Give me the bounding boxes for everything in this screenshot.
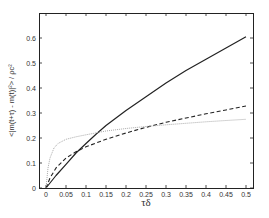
x-tick-label: 0	[44, 191, 48, 198]
x-tick-label: 0.15	[99, 191, 113, 198]
x-tick-label: 0.3	[161, 191, 171, 198]
y-tick-label: 0.4	[26, 85, 36, 92]
x-axis-label: τδ	[141, 196, 151, 208]
y-tick-label: 0.5	[26, 60, 36, 67]
y-tick-label: 0.1	[26, 160, 36, 167]
series-line-dashed	[46, 106, 246, 188]
x-tick-label: 0.05	[59, 191, 73, 198]
y-tick-label: 0.2	[26, 135, 36, 142]
y-tick-label: 0.6	[26, 35, 36, 42]
x-axis-ticks: 00.050.10.150.20.250.30.350.40.450.5	[44, 13, 251, 198]
y-axis-ticks: 00.10.20.30.40.50.6	[26, 35, 253, 192]
x-tick-label: 0.2	[121, 191, 131, 198]
data-series	[46, 37, 246, 188]
x-tick-label: 0.45	[219, 191, 233, 198]
x-tick-label: 0.4	[201, 191, 211, 198]
x-tick-label: 0.35	[179, 191, 193, 198]
x-tick-label: 0.1	[81, 191, 91, 198]
y-tick-label: 0	[32, 185, 36, 192]
line-chart: 00.050.10.150.20.250.30.350.40.450.5 00.…	[0, 0, 269, 218]
series-line-solid	[46, 37, 246, 188]
plot-frame	[40, 14, 254, 189]
x-tick-label: 0.5	[241, 191, 251, 198]
y-axis-label: <|m(t+τ) - m(t)|²> / ρc²	[7, 64, 16, 137]
y-tick-label: 0.3	[26, 110, 36, 117]
